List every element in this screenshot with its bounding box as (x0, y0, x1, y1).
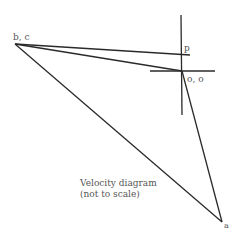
label-a: a (224, 221, 229, 230)
line-o-a (182, 71, 222, 222)
label-p: p (184, 43, 190, 53)
line-bc-p (15, 44, 190, 55)
label-o: o, o (187, 74, 204, 84)
vertical-line (181, 15, 182, 115)
diagram-title: Velocity diagram (79, 178, 157, 188)
velocity-diagram: b, c p o, o a Velocity diagram (not to s… (0, 0, 245, 247)
label-bc: b, c (13, 32, 30, 42)
line-bc-o (15, 44, 182, 71)
diagram-subtitle: (not to scale) (80, 189, 140, 199)
